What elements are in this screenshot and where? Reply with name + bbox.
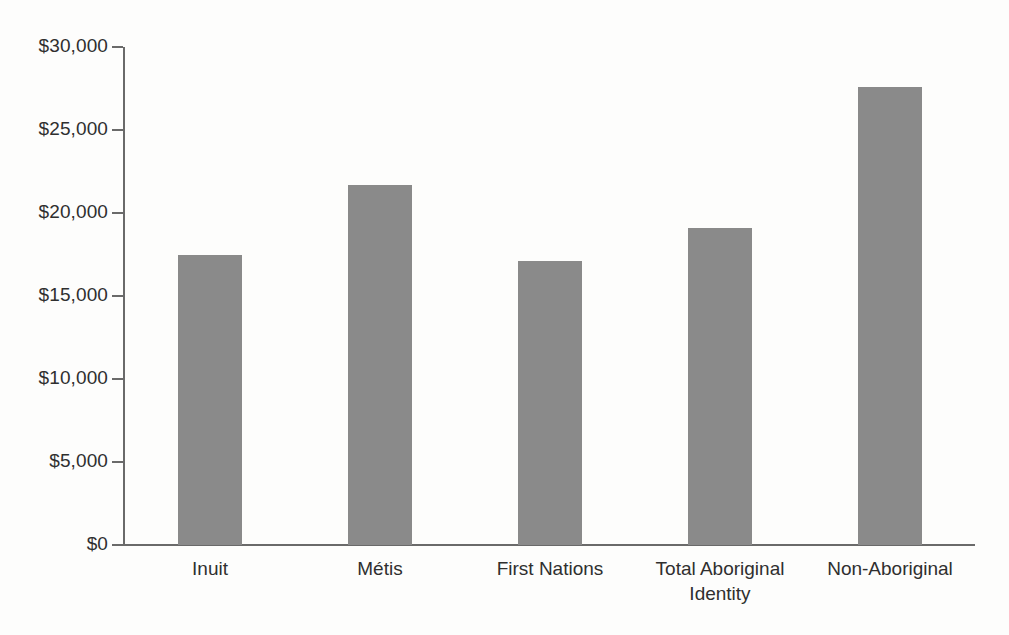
y-axis-tick-mark (112, 129, 123, 131)
y-axis-tick-label: $30,000 (4, 35, 108, 57)
bar-chart: $0$5,000$10,000$15,000$20,000$25,000$30,… (0, 0, 1009, 635)
x-axis-tick-label: Non-Aboriginal (805, 556, 975, 581)
y-axis-tick-label-wrap: $25,000 (0, 118, 108, 140)
y-axis-tick-label: $25,000 (4, 118, 108, 140)
y-axis-tick-mark (112, 295, 123, 297)
bar (858, 87, 922, 545)
bar-slot (805, 47, 975, 545)
y-axis-tick-mark (112, 46, 123, 48)
y-axis-tick-mark (112, 544, 123, 546)
bar (178, 255, 242, 546)
bar-slot (125, 47, 295, 545)
bar (348, 185, 412, 545)
y-axis-tick-mark (112, 378, 123, 380)
y-axis-tick-label-wrap: $20,000 (0, 201, 108, 223)
bar-slot (635, 47, 805, 545)
x-axis-tick-label: First Nations (465, 556, 635, 581)
y-axis-tick-label: $5,000 (4, 450, 108, 472)
bar (518, 261, 582, 545)
x-axis-tick-label: Inuit (125, 556, 295, 581)
plot-area (125, 47, 975, 545)
y-axis-tick-label: $20,000 (4, 201, 108, 223)
y-axis-tick-label-wrap: $0 (0, 533, 108, 555)
y-axis-tick-label-wrap: $5,000 (0, 450, 108, 472)
y-axis-tick-label-wrap: $30,000 (0, 35, 108, 57)
y-axis-tick-label: $0 (4, 533, 108, 555)
y-axis-tick-mark (112, 461, 123, 463)
x-axis-tick-label: Total Aboriginal Identity (635, 556, 805, 606)
y-axis-tick-label: $10,000 (4, 367, 108, 389)
bar (688, 228, 752, 545)
y-axis-tick-label: $15,000 (4, 284, 108, 306)
y-axis-tick-label-wrap: $15,000 (0, 284, 108, 306)
y-axis-tick-mark (112, 212, 123, 214)
y-axis-tick-label-wrap: $10,000 (0, 367, 108, 389)
bar-slot (295, 47, 465, 545)
x-axis-tick-label: Métis (295, 556, 465, 581)
bar-slot (465, 47, 635, 545)
